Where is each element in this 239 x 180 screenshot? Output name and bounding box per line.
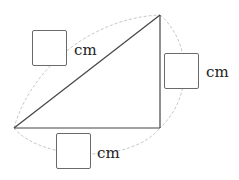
- hypotenuse-answer-box[interactable]: [32, 30, 67, 66]
- base-unit: cm: [97, 146, 120, 161]
- vertical-side-unit: cm: [206, 65, 229, 80]
- vertical-side-answer-box[interactable]: [164, 53, 199, 89]
- hypotenuse-unit: cm: [74, 43, 97, 58]
- base-answer-box[interactable]: [56, 133, 91, 169]
